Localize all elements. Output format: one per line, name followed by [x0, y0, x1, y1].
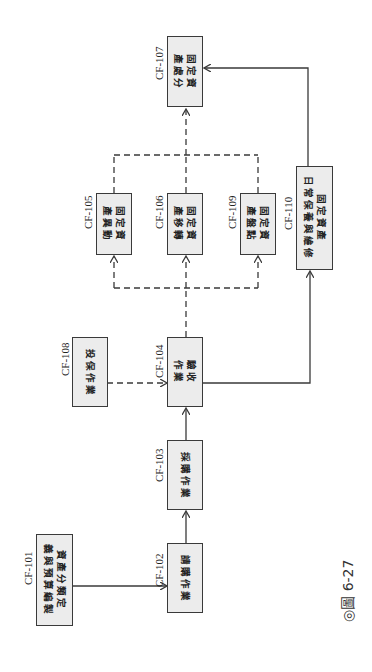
- node-cf-109: 固定資 產盤點: [240, 193, 276, 255]
- node-cf-103: 採購作業: [167, 440, 203, 510]
- node-cf-107-label: 固定資 產處分: [172, 54, 198, 90]
- node-cf-108-code: CF-108: [59, 342, 71, 376]
- node-cf-105: 固定資 產異動: [96, 193, 132, 255]
- node-cf-106-code: CF-106: [153, 195, 165, 229]
- node-cf-109-label: 固定資 產盤點: [245, 206, 271, 242]
- node-cf-110: 固定資產 日常保養與維修: [296, 166, 333, 270]
- node-cf-105-code: CF-105: [82, 195, 94, 229]
- node-cf-106-label: 固定資 產移轉: [172, 206, 198, 242]
- node-cf-101-code: CF-101: [22, 551, 34, 585]
- node-cf-109-code: CF-109: [226, 195, 238, 229]
- edge-110-107: [205, 68, 308, 166]
- node-cf-103-label: 採購作業: [179, 451, 192, 499]
- node-cf-110-label: 固定資產 日常保養與維修: [302, 176, 328, 260]
- node-cf-102-code: CF-102: [153, 553, 165, 587]
- node-cf-103-code: CF-103: [153, 448, 165, 482]
- node-cf-101-label: 資產分類定 義與預算編製: [42, 544, 68, 616]
- node-cf-102: 請購作業: [167, 543, 203, 613]
- node-cf-107: 固定資 產處分: [167, 36, 203, 107]
- node-cf-108: 投保作業: [72, 337, 108, 407]
- node-cf-101: 資產分類定 義與預算編製: [36, 534, 73, 626]
- node-cf-108-label: 投保作業: [84, 348, 97, 396]
- node-cf-107-code: CF-107: [153, 46, 165, 80]
- node-cf-106: 固定資 產移轉: [167, 193, 203, 255]
- figure-caption: ◎圖 6-27: [337, 560, 357, 622]
- node-cf-104: 驗收 作業: [167, 337, 203, 407]
- flowchart-canvas: 固定資 產處分 CF-107 固定資 產異動 CF-105 固定資 產移轉 CF…: [0, 0, 372, 672]
- node-cf-105-label: 固定資 產異動: [101, 206, 127, 242]
- node-cf-110-code: CF-110: [282, 197, 294, 230]
- node-cf-104-code: CF-104: [153, 344, 165, 378]
- node-cf-104-label: 驗收 作業: [172, 360, 198, 384]
- node-cf-102-label: 請購作業: [179, 554, 192, 602]
